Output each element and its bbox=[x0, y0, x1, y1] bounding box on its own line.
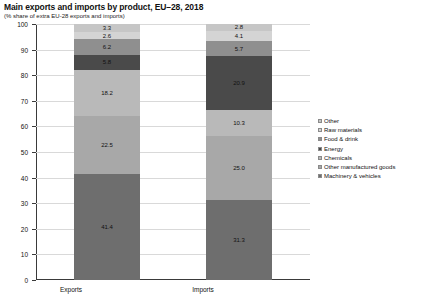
legend-swatch-icon bbox=[318, 147, 322, 151]
bar-segment-value: 10.3 bbox=[233, 120, 245, 126]
x-axis-label-exports: Exports bbox=[26, 286, 116, 293]
y-tick-label-10: 10 bbox=[0, 251, 28, 258]
bar-segment-value: 31.3 bbox=[233, 237, 245, 243]
y-tick-mark-60 bbox=[32, 126, 36, 127]
bar-segment-imports-other: 2.8 bbox=[206, 24, 272, 31]
bar-segment-exports-machinery-vehicles: 41.4 bbox=[74, 174, 140, 280]
bar-segment-imports-food-drink: 5.7 bbox=[206, 41, 272, 56]
bar-segment-exports-other-manufactured-goods: 22.5 bbox=[74, 116, 140, 174]
y-tick-mark-90 bbox=[32, 50, 36, 51]
y-tick-mark-10 bbox=[32, 254, 36, 255]
x-axis-label-imports: Imports bbox=[158, 286, 248, 293]
y-tick-mark-20 bbox=[32, 229, 36, 230]
legend-item-machinery-vehicles[interactable]: Machinery & vehicles bbox=[318, 173, 395, 179]
legend-swatch-icon bbox=[318, 165, 322, 169]
y-tick-label-90: 90 bbox=[0, 46, 28, 53]
legend-item-other-manufactured-goods[interactable]: Other manufactured goods bbox=[318, 164, 395, 170]
legend-item-raw-materials[interactable]: Raw materials bbox=[318, 127, 395, 133]
bar-segment-value: 3.3 bbox=[103, 25, 111, 31]
bar-segment-imports-chemicals: 10.3 bbox=[206, 110, 272, 136]
legend-label: Other bbox=[324, 118, 339, 124]
legend-swatch-icon bbox=[318, 119, 322, 123]
plot-area: 41.422.518.25.86.22.63.3 31.325.010.320.… bbox=[36, 24, 310, 280]
bar-segment-value: 22.5 bbox=[101, 142, 113, 148]
bar-segment-exports-energy: 5.8 bbox=[74, 55, 140, 70]
legend-item-energy[interactable]: Energy bbox=[318, 146, 395, 152]
bar-segment-value: 25.0 bbox=[233, 165, 245, 171]
legend-swatch-icon bbox=[318, 156, 322, 160]
y-tick-label-40: 40 bbox=[0, 174, 28, 181]
legend-swatch-icon bbox=[318, 174, 322, 178]
legend-item-other[interactable]: Other bbox=[318, 118, 395, 124]
y-tick-mark-100 bbox=[32, 24, 36, 25]
bar-segment-value: 5.7 bbox=[235, 46, 243, 52]
bar-segment-exports-raw-materials: 2.6 bbox=[74, 32, 140, 39]
y-tick-label-50: 50 bbox=[0, 149, 28, 156]
legend-label: Machinery & vehicles bbox=[324, 173, 381, 179]
y-tick-label-100: 100 bbox=[0, 21, 28, 28]
y-tick-label-20: 20 bbox=[0, 225, 28, 232]
legend-label: Raw materials bbox=[324, 127, 362, 133]
y-tick-mark-30 bbox=[32, 203, 36, 204]
legend-label: Energy bbox=[324, 146, 343, 152]
bar-segment-value: 20.9 bbox=[233, 80, 245, 86]
legend-item-food-drink[interactable]: Food & drink bbox=[318, 136, 395, 142]
gridline-0 bbox=[36, 280, 310, 281]
y-tick-mark-50 bbox=[32, 152, 36, 153]
y-tick-label-80: 80 bbox=[0, 72, 28, 79]
y-tick-label-70: 70 bbox=[0, 97, 28, 104]
chart-title: Main exports and imports by product, EU–… bbox=[4, 2, 203, 12]
legend-swatch-icon bbox=[318, 128, 322, 132]
bar-segment-value: 2.6 bbox=[103, 33, 111, 39]
bar-segment-exports-other: 3.3 bbox=[74, 24, 140, 32]
bar-segment-imports-machinery-vehicles: 31.3 bbox=[206, 200, 272, 280]
y-tick-mark-70 bbox=[32, 101, 36, 102]
legend-swatch-icon bbox=[318, 137, 322, 141]
bar-segment-value: 2.8 bbox=[235, 24, 243, 30]
legend-item-chemicals[interactable]: Chemicals bbox=[318, 155, 395, 161]
y-tick-mark-40 bbox=[32, 178, 36, 179]
y-tick-label-30: 30 bbox=[0, 200, 28, 207]
legend-label: Other manufactured goods bbox=[324, 164, 395, 170]
y-tick-mark-80 bbox=[32, 75, 36, 76]
bar-segment-imports-energy: 20.9 bbox=[206, 56, 272, 110]
bar-segment-exports-chemicals: 18.2 bbox=[74, 70, 140, 117]
legend-label: Chemicals bbox=[324, 155, 352, 161]
chart-legend: OtherRaw materialsFood & drinkEnergyChem… bbox=[318, 118, 395, 179]
bar-segment-value: 18.2 bbox=[101, 90, 113, 96]
chart-container: Main exports and imports by product, EU–… bbox=[0, 0, 427, 305]
bar-segment-value: 6.2 bbox=[103, 44, 111, 50]
y-tick-label-60: 60 bbox=[0, 123, 28, 130]
y-tick-mark-0 bbox=[32, 280, 36, 281]
legend-label: Food & drink bbox=[324, 136, 358, 142]
bar-segment-value: 4.1 bbox=[235, 33, 243, 39]
bar-segment-imports-other-manufactured-goods: 25.0 bbox=[206, 136, 272, 200]
bar-segment-exports-food-drink: 6.2 bbox=[74, 39, 140, 55]
bar-segment-imports-raw-materials: 4.1 bbox=[206, 31, 272, 41]
bar-segment-value: 5.8 bbox=[103, 59, 111, 65]
y-tick-label-0: 0 bbox=[0, 277, 28, 284]
bar-segment-value: 41.4 bbox=[101, 224, 113, 230]
chart-subtitle: (% share of extra EU-28 exports and impo… bbox=[4, 13, 125, 19]
